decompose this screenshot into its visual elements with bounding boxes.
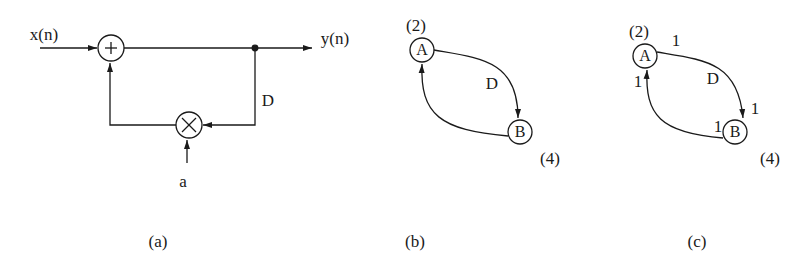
edge-ba-out-weight: 1: [714, 118, 723, 135]
caption-a: (a): [149, 233, 168, 250]
node-a-time: (2): [629, 23, 649, 40]
node-b-time: (4): [760, 150, 780, 167]
edge-a-to-b: [434, 50, 518, 118]
node-b-label: B: [730, 124, 741, 140]
node-b-label: B: [515, 124, 526, 140]
node-a-time: (2): [406, 17, 426, 34]
caption-b: (b): [405, 233, 425, 250]
edge-ab-in-weight: 1: [751, 100, 760, 117]
feedback-to-adder-edge: [110, 63, 176, 125]
edge-a-to-b: [657, 52, 743, 118]
edge-ba-in-weight: 1: [634, 73, 643, 90]
edge-ab-out-weight: 1: [672, 32, 681, 49]
edge-delay-label: D: [707, 70, 719, 87]
node-b-time: (4): [540, 150, 560, 167]
figure-drawing: [0, 0, 801, 271]
output-label: y(n): [321, 30, 349, 47]
node-a-label: A: [416, 42, 428, 58]
delay-label: D: [262, 92, 274, 109]
edge-delay-label: D: [486, 75, 498, 92]
figure-canvas: x(n) y(n) D a A B (2) (4) D A B (2) (4) …: [0, 0, 801, 271]
feedback-delay-edge: [203, 48, 255, 125]
node-a-label: A: [639, 48, 651, 64]
coefficient-label: a: [179, 173, 187, 190]
caption-c: (c): [688, 233, 707, 250]
input-label: x(n): [30, 26, 58, 43]
